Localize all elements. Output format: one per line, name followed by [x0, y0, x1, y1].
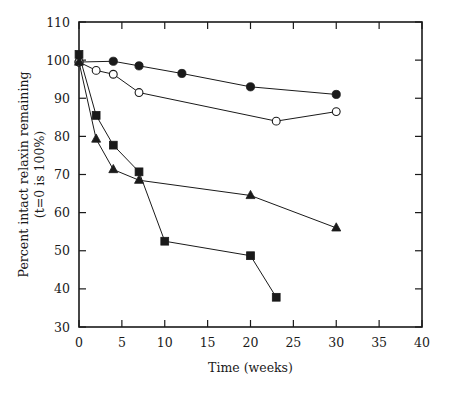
plot-frame: [79, 22, 422, 327]
data-point-open-circle: [272, 117, 280, 125]
data-point-filled-circle: [332, 90, 340, 98]
data-point-filled-circle: [246, 83, 254, 91]
data-point-filled-triangle: [92, 134, 101, 142]
y-tick-label: 60: [54, 205, 70, 220]
y-tick-label: 40: [54, 281, 70, 296]
data-point-filled-square: [92, 112, 100, 120]
data-point-filled-square: [75, 51, 83, 59]
data-point-filled-square: [109, 141, 117, 149]
series-line-filled-square: [79, 54, 276, 297]
x-tick-label: 40: [414, 335, 430, 350]
x-tick-label: 15: [200, 335, 216, 350]
x-tick-label: 25: [285, 335, 301, 350]
data-point-filled-triangle: [246, 190, 255, 198]
y-tick-label: 100: [46, 53, 70, 68]
x-tick-label: 10: [157, 335, 173, 350]
data-point-filled-circle: [178, 69, 186, 77]
y-tick-label: 70: [54, 167, 70, 182]
y-tick-label: 30: [54, 320, 70, 335]
y-tick-label: 50: [54, 243, 70, 258]
line-chart: 051015202530354030405060708090100110Time…: [0, 0, 458, 400]
x-tick-label: 5: [118, 335, 126, 350]
data-point-filled-square: [135, 168, 143, 176]
data-point-filled-triangle: [109, 164, 118, 172]
series-line-open-circle: [79, 62, 336, 121]
x-axis: 0510152025303540: [75, 22, 430, 350]
x-tick-label: 20: [243, 335, 259, 350]
y-tick-label: 110: [46, 15, 70, 30]
data-point-filled-circle: [109, 57, 117, 65]
y-axis: 30405060708090100110: [46, 15, 422, 335]
x-tick-label: 35: [371, 335, 387, 350]
x-tick-label: 30: [328, 335, 344, 350]
data-point-open-circle: [92, 67, 100, 75]
figure-container: 051015202530354030405060708090100110Time…: [0, 0, 458, 400]
data-point-filled-square: [247, 252, 255, 260]
data-point-open-circle: [109, 70, 117, 78]
y-axis-label-line1: Percent intact relaxin remaining: [16, 72, 31, 278]
x-axis-label: Time (weeks): [208, 360, 293, 375]
y-tick-label: 80: [54, 129, 70, 144]
data-point-filled-square: [161, 237, 169, 245]
series-group: [75, 51, 341, 302]
data-point-filled-square: [272, 293, 280, 301]
y-tick-label: 90: [54, 91, 70, 106]
x-tick-label: 0: [75, 335, 83, 350]
y-axis-label-line2: (t=0 is 100%): [32, 131, 47, 218]
data-point-filled-circle: [135, 62, 143, 70]
data-point-open-circle: [332, 108, 340, 116]
data-point-open-circle: [135, 89, 143, 97]
